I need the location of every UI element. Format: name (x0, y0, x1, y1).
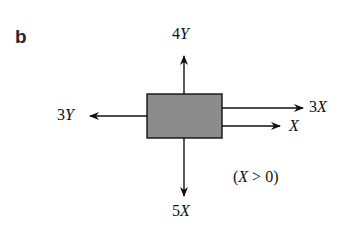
coef: 3 (57, 106, 65, 123)
force-label-down: 5X (172, 202, 190, 220)
force-label-right-upper: 3X (309, 98, 327, 116)
force-label-up: 4Y (172, 25, 189, 43)
body-block (147, 94, 222, 138)
var: X (317, 98, 327, 115)
coef: 4 (172, 25, 180, 42)
force-label-right-lower: X (289, 117, 299, 135)
var: Y (180, 25, 189, 42)
var: X (238, 168, 248, 185)
coef: 3 (309, 98, 317, 115)
var: Y (65, 106, 74, 123)
rest: > 0) (248, 168, 278, 185)
condition-label: (X > 0) (233, 168, 278, 186)
force-label-left: 3Y (57, 106, 74, 124)
coef: 5 (172, 202, 180, 219)
var: X (289, 117, 299, 134)
var: X (180, 202, 190, 219)
